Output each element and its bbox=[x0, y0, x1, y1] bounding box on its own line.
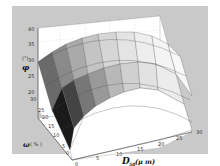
svg-text:40: 40 bbox=[28, 26, 34, 32]
svg-text:φ: φ bbox=[22, 62, 30, 72]
surface-plot: 40 35 30 25 20 30 25 20 15 10 5 0 0 5 10… bbox=[0, 0, 220, 166]
svg-text:15: 15 bbox=[137, 146, 143, 152]
svg-text:10: 10 bbox=[53, 132, 59, 138]
svg-text:15: 15 bbox=[48, 123, 54, 129]
svg-text:30: 30 bbox=[30, 96, 36, 102]
svg-text:( % ): ( % ) bbox=[30, 141, 42, 147]
svg-text:(μ m): (μ m) bbox=[135, 158, 155, 166]
svg-text:5: 5 bbox=[62, 143, 65, 149]
y-axis-label: ω ( % ) bbox=[23, 140, 42, 149]
svg-text:30: 30 bbox=[196, 129, 202, 135]
svg-text:ω: ω bbox=[23, 140, 30, 149]
svg-text:25: 25 bbox=[38, 107, 44, 113]
svg-text:35: 35 bbox=[28, 41, 34, 47]
svg-text:25: 25 bbox=[28, 73, 34, 79]
svg-text:20: 20 bbox=[158, 141, 164, 147]
svg-text:(°): (°) bbox=[22, 55, 28, 61]
svg-text:0: 0 bbox=[66, 150, 69, 156]
svg-text:25: 25 bbox=[176, 135, 182, 141]
z-tick-labels: 40 35 30 25 20 bbox=[28, 26, 34, 95]
svg-text:5: 5 bbox=[96, 155, 99, 161]
svg-text:0: 0 bbox=[75, 161, 78, 166]
x-axis-label: D 50 (μ m) bbox=[121, 156, 155, 166]
svg-text:20: 20 bbox=[42, 114, 48, 120]
svg-text:20: 20 bbox=[28, 89, 34, 95]
